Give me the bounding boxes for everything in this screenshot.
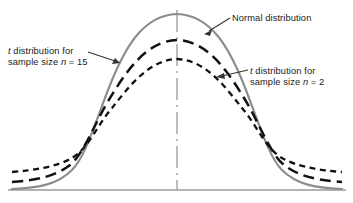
label-t15-line1-text: distribution for — [11, 46, 74, 56]
label-t15-line2-pre: sample size — [8, 57, 61, 67]
label-t-distribution-n15: t distribution for sample size n = 15 — [8, 46, 88, 69]
label-t2-line1: t distribution for — [250, 66, 324, 77]
label-t2-line2: sample size n = 2 — [250, 77, 324, 88]
label-t2-line2-pre: sample size — [250, 77, 303, 87]
distribution-plot — [0, 0, 353, 203]
leader-t15 — [88, 52, 120, 64]
label-t2-line2-post: = 2 — [308, 77, 324, 87]
label-normal-distribution: Normal distribution — [232, 13, 311, 24]
figure-container: Normal distribution t distribution for s… — [0, 0, 353, 203]
label-t-distribution-n2: t distribution for sample size n = 2 — [250, 66, 324, 89]
label-t15-line2: sample size n = 15 — [8, 57, 88, 68]
label-t2-line1-text: distribution for — [253, 66, 316, 76]
label-normal-text: Normal distribution — [232, 13, 311, 23]
label-t15-line1: t distribution for — [8, 46, 88, 57]
label-t15-line2-post: = 15 — [66, 57, 87, 67]
leader-t2 — [216, 70, 248, 79]
